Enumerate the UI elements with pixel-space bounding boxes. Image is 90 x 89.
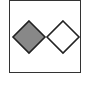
outline-diamond-icon: [47, 21, 79, 53]
diamond-pair-icon: [0, 0, 90, 89]
filled-diamond-icon: [13, 21, 45, 53]
